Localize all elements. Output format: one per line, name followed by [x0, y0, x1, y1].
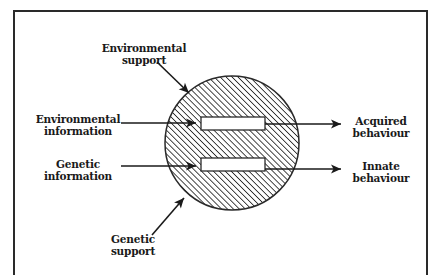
label-environmental-support: Environmental support: [96, 42, 192, 66]
label-environmental-information: Environmental information: [30, 113, 126, 137]
diagram-canvas: Environmental support Environmental info…: [0, 0, 439, 275]
label-innate-behaviour: Innate behaviour: [343, 160, 419, 184]
genetic-channel-box: [201, 158, 265, 171]
label-acquired-behaviour: Acquired behaviour: [343, 115, 419, 139]
environmental-support-arrow: [157, 62, 189, 93]
organism-circle: [165, 76, 299, 210]
genetic-support-arrow: [152, 198, 184, 235]
label-genetic-information: Genetic information: [30, 158, 126, 182]
environmental-channel-box: [201, 117, 265, 130]
label-genetic-support: Genetic support: [85, 233, 181, 257]
